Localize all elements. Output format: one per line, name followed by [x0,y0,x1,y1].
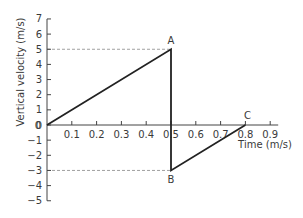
y-tick-label: −1 [27,135,42,146]
point-annotations: ABC [168,35,251,185]
point-label-c: C [244,110,251,121]
y-axis-title: Vertical velocity (m/s) [15,17,26,126]
reference-dashed-lines [47,49,171,170]
point-label-b: B [168,174,175,185]
x-axis-ticks: 00.10.20.30.40.50.60.70.80.9 [35,120,279,140]
y-tick-label: 1 [36,104,42,115]
x-tick-label: 0.3 [113,129,129,140]
point-label-a: A [168,35,175,46]
x-tick-label: 0.6 [188,129,204,140]
velocity-time-chart: 76543210−1−2−3−4−5 00.10.20.30.40.50.60.… [0,0,303,218]
y-tick-label: 5 [36,44,42,55]
velocity-line [47,49,245,170]
y-tick-label: 2 [36,89,42,100]
y-tick-label: −5 [27,195,42,206]
data-series [47,49,245,170]
y-tick-label: 4 [36,59,42,70]
x-tick-label: 0.4 [138,129,154,140]
y-tick-label: −4 [27,180,42,191]
x-tick-label: 0.2 [89,129,105,140]
x-tick-label: 0.7 [213,129,229,140]
origin-label: 0 [35,120,41,131]
x-axis-title: Time (m/s) [237,139,292,150]
y-tick-label: −2 [27,150,42,161]
y-tick-label: 7 [36,13,42,24]
y-tick-label: 3 [36,74,42,85]
y-tick-label: 6 [36,29,42,40]
y-tick-label: −3 [27,165,42,176]
x-tick-label: 0.1 [64,129,80,140]
